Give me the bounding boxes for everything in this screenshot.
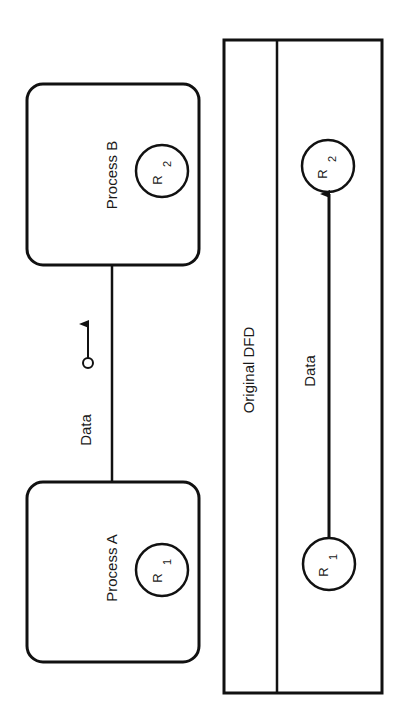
resource-r1-letter: R [150, 573, 165, 582]
panel-node-r2-letter: R [315, 169, 330, 178]
resource-r2-circle: R 2 [136, 145, 188, 197]
data-couple-arrow-icon [83, 324, 93, 368]
process-b[interactable]: Process B R 2 [27, 84, 199, 265]
panel-flow-label: Data [301, 355, 318, 387]
resource-r1-circle: R 1 [136, 544, 188, 596]
panel-node-r1-index: 1 [327, 554, 339, 560]
process-a-label: Process A [103, 534, 120, 602]
panel-node-r1-letter: R [316, 567, 331, 576]
process-b-label: Process B [103, 141, 120, 209]
panel-node-r2-index: 2 [326, 156, 338, 162]
original-dfd-panel: Original DFD Data R 2 R 1 [224, 40, 382, 693]
resource-r1-index: 1 [161, 559, 173, 565]
panel-title: Original DFD [240, 326, 257, 413]
resource-r2-letter: R [150, 175, 165, 184]
data-flow-label: Data [77, 414, 94, 446]
dfd-diagram: Process B R 2 Data Process A R 1 Origina… [0, 0, 407, 726]
panel-node-r2: R 2 [302, 140, 354, 192]
resource-r2-index: 2 [161, 161, 173, 167]
panel-node-r1: R 1 [303, 538, 355, 590]
process-a[interactable]: Process A R 1 [27, 482, 199, 662]
